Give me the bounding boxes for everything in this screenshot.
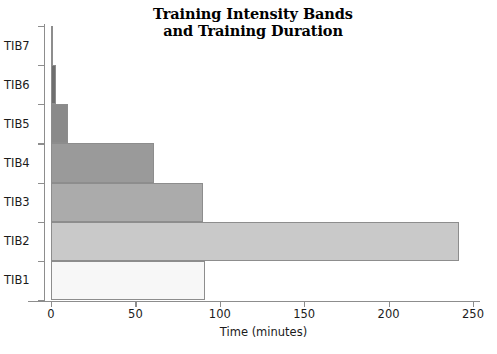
x-axis-line xyxy=(28,301,480,302)
chart-title-line-1: Training Intensity Bands xyxy=(118,6,388,23)
bar-tib2[interactable] xyxy=(51,222,459,261)
y-label-tib1: TIB1 xyxy=(4,273,42,287)
bar-tib4[interactable] xyxy=(51,143,154,182)
y-label-tib5: TIB5 xyxy=(4,117,42,131)
y-tick xyxy=(38,65,44,66)
x-label-250: 250 xyxy=(453,307,493,321)
x-label-0: 0 xyxy=(31,307,71,321)
y-label-tib6: TIB6 xyxy=(4,78,42,92)
y-tick xyxy=(38,261,44,262)
y-tick xyxy=(38,183,44,184)
y-label-tib3: TIB3 xyxy=(4,195,42,209)
y-tick xyxy=(38,300,44,301)
x-label-100: 100 xyxy=(200,307,240,321)
x-axis-title-text: Time (minutes) xyxy=(220,325,307,339)
chart-figure: Training Intensity Bands and Training Du… xyxy=(0,0,497,354)
bar-tib3[interactable] xyxy=(51,183,203,222)
y-label-tib4: TIB4 xyxy=(4,156,42,170)
x-label-200: 200 xyxy=(369,307,409,321)
y-label-tib7: TIB7 xyxy=(4,39,42,53)
x-axis-title: Time (minutes) xyxy=(0,325,497,339)
bar-tib7[interactable] xyxy=(51,26,53,65)
y-tick xyxy=(38,143,44,144)
y-tick xyxy=(38,26,44,27)
y-label-tib2: TIB2 xyxy=(4,234,42,248)
plot-area xyxy=(51,26,473,300)
y-tick xyxy=(38,222,44,223)
y-tick xyxy=(38,104,44,105)
x-label-50: 50 xyxy=(115,307,155,321)
bar-tib1[interactable] xyxy=(51,261,205,300)
x-label-150: 150 xyxy=(284,307,324,321)
bar-tib5[interactable] xyxy=(51,104,68,143)
y-axis-line xyxy=(44,24,45,302)
bar-tib6[interactable] xyxy=(51,65,56,104)
